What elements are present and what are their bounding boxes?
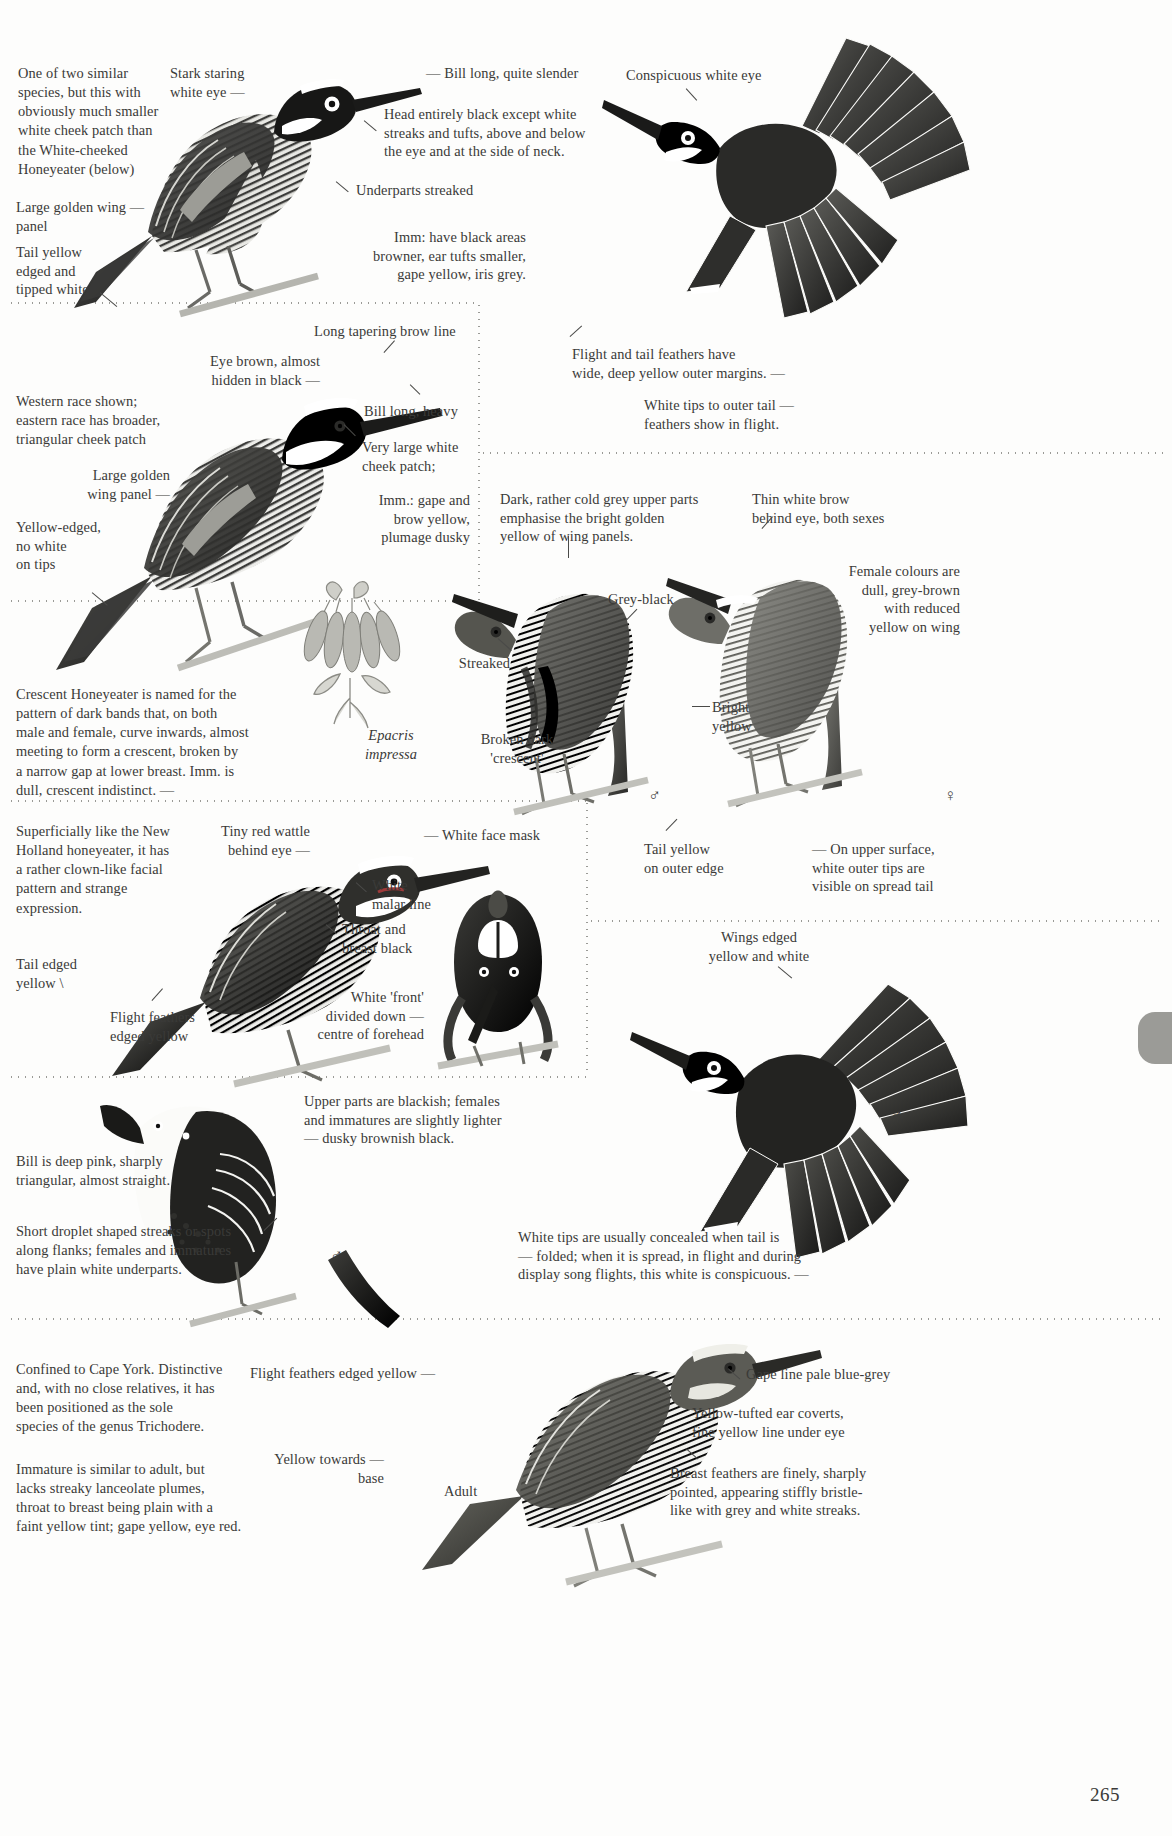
label-underparts-streaked: Underparts streaked bbox=[356, 181, 556, 200]
label-bright-yellow: Bright yellow bbox=[712, 698, 822, 735]
label-immature-notes: Imm: have black areas browner, ear tufts… bbox=[330, 228, 526, 284]
label-thin-white-brow: Thin white brow behind eye, both sexes bbox=[752, 490, 972, 527]
leader-bill-heavy bbox=[410, 384, 421, 395]
label-yellow-edged-no-white: Yellow-edged, no white on tips bbox=[16, 518, 166, 574]
panel6-intro-text: Confined to Cape York. Distinctive and, … bbox=[16, 1360, 246, 1437]
label-flight-feathers-edged-yellow-2: Flight feathers edged yellow — bbox=[250, 1364, 500, 1383]
illustration-white-streaked-honeyeater-adult bbox=[400, 1318, 820, 1608]
label-conspicuous-white-eye: Conspicuous white eye bbox=[626, 66, 816, 85]
leader-dark-grey bbox=[568, 536, 569, 558]
label-large-golden-wing-panel: Large golden wing — panel bbox=[16, 198, 196, 235]
leader-bright-yellow bbox=[692, 706, 710, 707]
page-edge-tab bbox=[1138, 1012, 1172, 1064]
label-short-droplet-streaks: Short droplet shaped streaks or spots al… bbox=[16, 1222, 266, 1279]
label-streaked: Streaked bbox=[400, 654, 510, 673]
panel6-immature-text: Immature is similar to adult, but lacks … bbox=[16, 1460, 246, 1537]
label-bill-deep-pink: Bill is deep pink, sharply triangular, a… bbox=[16, 1152, 236, 1190]
male-symbol-crescent: ♂ bbox=[648, 786, 661, 806]
label-breast-feathers-bristle-like: Breast feathers are finely, sharply poin… bbox=[670, 1464, 1000, 1520]
label-large-golden-wing-panel-2: Large golden wing panel — bbox=[20, 466, 170, 503]
label-upper-parts-blackish: Upper parts are blackish; females and im… bbox=[304, 1092, 614, 1148]
leader-head bbox=[364, 120, 377, 131]
label-bill-long-heavy: Bill long, heavy bbox=[364, 402, 544, 421]
illustration-crescent-honeyeater-male bbox=[452, 548, 682, 818]
label-tail-edged-yellow: Tail edged yellow \ bbox=[16, 955, 146, 992]
label-tiny-red-wattle: Tiny red wattle behind eye — bbox=[170, 822, 310, 859]
label-white-tips-outer-tail: White tips to outer tail — feathers show… bbox=[644, 396, 944, 433]
label-eye-brown-hidden: Eye brown, almost hidden in black — bbox=[120, 352, 320, 389]
label-white-tips-concealed: White tips are usually concealed when ta… bbox=[518, 1228, 858, 1284]
label-upper-surface-white-tips: — On upper surface, white outer tips are… bbox=[812, 840, 1062, 896]
male-symbol-banded: ♂ bbox=[330, 1246, 343, 1266]
field-guide-page: One of two similar species, but this wit… bbox=[0, 0, 1172, 1836]
label-adult: Adult bbox=[444, 1482, 524, 1501]
label-stark-staring-white-eye: Stark staring white eye — bbox=[170, 64, 330, 101]
label-white-face-mask: — White face mask bbox=[424, 826, 624, 845]
leader-brow bbox=[384, 340, 396, 353]
label-long-tapering-brow-line: Long tapering brow line bbox=[314, 322, 564, 341]
male-symbol-white-fronted: ♂ bbox=[890, 1106, 903, 1126]
label-wings-edged-yellow-white: Wings edged yellow and white bbox=[664, 928, 854, 965]
label-broken-dark-crescent: Broken dark 'crescent' bbox=[452, 730, 582, 767]
label-tail-yellow-edged-tipped-white: Tail yellow edged and tipped white bbox=[16, 243, 166, 299]
label-grey-black: Grey-black bbox=[608, 590, 728, 609]
label-flight-and-tail-feathers: Flight and tail feathers have wide, deep… bbox=[572, 345, 872, 382]
label-flight-feathers-edged-yellow: Flight feathers edged yellow bbox=[110, 1008, 270, 1045]
label-yellow-tufted-ear-coverts: Yellow-tufted ear coverts, fine yellow l… bbox=[692, 1404, 992, 1441]
crescent-honeyeater-description: Crescent Honeyeater is named for the pat… bbox=[16, 685, 266, 800]
label-very-large-white-cheek: Very large white cheek patch; bbox=[362, 438, 542, 475]
label-gape-line-pale-blue-grey: Gape line pale blue-grey bbox=[746, 1365, 1006, 1384]
divider-row-2 bbox=[480, 452, 1164, 454]
label-epacris-impressa: Epacris impressa bbox=[336, 726, 446, 763]
label-white-front-divided: White 'front' divided down — centre of f… bbox=[298, 988, 424, 1044]
label-throat-breast-black: Throat and breast black bbox=[342, 920, 492, 957]
label-yellow-towards-base: Yellow towards — base bbox=[254, 1450, 384, 1487]
label-tail-yellow-outer-edge: Tail yellow on outer edge bbox=[644, 840, 814, 877]
female-symbol-crescent: ♀ bbox=[944, 786, 957, 806]
label-white-malar-line: White malar line bbox=[372, 876, 492, 913]
label-female-colours: Female colours are dull, grey-brown with… bbox=[800, 562, 960, 637]
divider-row-6 bbox=[588, 920, 1164, 922]
page-number: 265 bbox=[1090, 1784, 1120, 1806]
label-immature-gape-brow: Imm.: gape and brow yellow, plumage dusk… bbox=[330, 491, 470, 547]
label-dark-cold-grey-upper-parts: Dark, rather cold grey upper parts empha… bbox=[500, 490, 790, 546]
leader-tail-yellow bbox=[666, 819, 678, 831]
panel2-race-note: Western race shown; eastern race has bro… bbox=[16, 392, 226, 449]
